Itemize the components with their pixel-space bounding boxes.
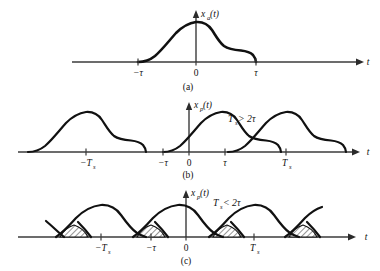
panel-b-replica-centre xyxy=(163,112,281,152)
panel-b-label-zero: 0 xyxy=(187,158,192,168)
svg-text:s: s xyxy=(257,248,260,255)
svg-text:−T: −T xyxy=(95,243,107,253)
svg-text:T: T xyxy=(282,158,288,168)
panel-b-label-neg-tau: −τ xyxy=(158,158,168,168)
sampling-aliasing-figure: t x a (t) −τ 0 τ (a) t xyxy=(0,0,380,271)
panel-c-label-neg-tau: −τ xyxy=(146,243,156,253)
svg-text:(t): (t) xyxy=(203,100,212,111)
panel-c-amplitude-arrow xyxy=(183,190,189,198)
panel-c-signal-label: x p (t) xyxy=(190,188,209,200)
panel-c-replica-0-tail xyxy=(46,221,64,237)
panel-b-label-Ts: T s xyxy=(282,158,292,170)
panel-c-axis-arrow xyxy=(348,234,356,241)
svg-text:> 2τ: > 2τ xyxy=(238,113,256,124)
panel-c-condition: T s < 2τ xyxy=(213,197,241,210)
panel-c-label-zero: 0 xyxy=(184,243,189,253)
panel-b-caption: (b) xyxy=(182,170,193,181)
panel-b-amplitude-arrow xyxy=(186,102,192,110)
svg-text:(t): (t) xyxy=(200,188,209,199)
panel-a-label-neg-tau: −τ xyxy=(133,68,143,78)
panel-a: t x a (t) −τ 0 τ (a) xyxy=(72,9,370,93)
svg-text:T: T xyxy=(213,197,220,208)
panel-a-amplitude-arrow xyxy=(193,10,199,18)
svg-text:−T: −T xyxy=(80,158,92,168)
panel-b-label-tau: τ xyxy=(223,158,227,168)
panel-b-axis-label: t xyxy=(367,147,370,157)
svg-text:s: s xyxy=(108,248,111,255)
panel-a-axis-arrow xyxy=(356,59,364,66)
panel-a-caption: (a) xyxy=(183,82,194,93)
svg-text:x: x xyxy=(190,188,196,198)
panel-c-label-neg-Ts: −T s xyxy=(95,243,111,255)
panel-b-axis-arrow xyxy=(352,149,360,156)
figure-container: t x a (t) −τ 0 τ (a) t xyxy=(0,0,380,271)
panel-b-replica-left xyxy=(28,112,146,152)
svg-text:s: s xyxy=(289,163,292,170)
panel-a-signal-label: x a (t) xyxy=(200,9,219,21)
svg-text:< 2τ: < 2τ xyxy=(223,197,241,208)
panel-c-caption: (c) xyxy=(181,256,192,267)
svg-text:x: x xyxy=(193,100,199,110)
panel-c-label-Ts: T s xyxy=(250,243,260,255)
panel-a-label-zero: 0 xyxy=(194,68,199,78)
svg-text:(t): (t) xyxy=(210,9,219,20)
panel-b-label-neg-Ts: −T s xyxy=(80,158,96,170)
panel-a-label-tau: τ xyxy=(254,68,258,78)
panel-b-signal-label: x p (t) xyxy=(193,100,212,112)
panel-a-axis-label: t xyxy=(367,57,370,67)
panel-a-pulse-curve xyxy=(138,22,256,62)
panel-c-axis-label: t xyxy=(365,232,368,242)
svg-text:s: s xyxy=(93,163,96,170)
svg-text:x: x xyxy=(200,9,206,19)
panel-b: t x p (t) T s > 2τ xyxy=(18,100,370,181)
svg-text:T: T xyxy=(250,243,256,253)
panel-c: t x p (t) T s < 2τ xyxy=(18,188,368,267)
